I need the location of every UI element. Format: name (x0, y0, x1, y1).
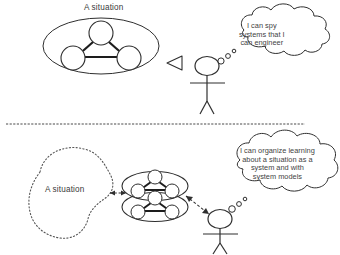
top-system-nodes (61, 21, 141, 70)
model-to-person-arrow (186, 196, 209, 214)
bottom-system-model (122, 170, 188, 222)
bottom-thought-text: I can organize learning about a situatio… (240, 147, 315, 181)
diagram-canvas: A situation I can spy systems that I can… (0, 0, 340, 255)
top-stick-figure (190, 57, 225, 115)
top-thought-tail (218, 49, 236, 64)
bottom-thought-line-4: system models (240, 173, 315, 182)
diagram-svg (0, 0, 340, 255)
top-thought-line-3: can engineer (239, 39, 285, 48)
bottom-situation-label: A situation (45, 185, 84, 194)
top-gaze-icon (167, 56, 182, 70)
bottom-stick-figure (203, 210, 238, 255)
bottom-thought-tail (229, 197, 247, 212)
top-situation-label: A situation (84, 3, 123, 12)
top-thought-text: I can spy systems that I can engineer (239, 22, 285, 48)
